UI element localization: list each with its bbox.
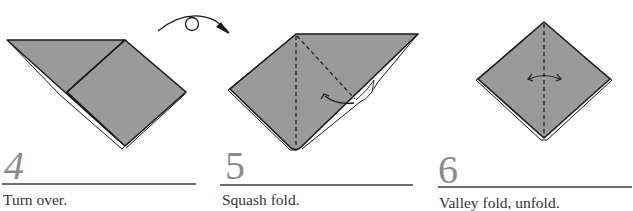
turn-over-arrow-icon	[158, 16, 229, 34]
step-4-model	[7, 40, 186, 149]
step-6-model	[476, 22, 612, 140]
step-number-6: 6	[438, 150, 458, 190]
step-5-caption: Squash fold.	[222, 192, 300, 208]
step-4-caption: Turn over.	[3, 192, 67, 208]
step-4-divider	[2, 183, 196, 185]
step-6-divider	[438, 186, 632, 188]
step-number-4: 4	[4, 146, 24, 186]
step-5-model	[228, 34, 418, 150]
step-6-caption: Valley fold, unfold.	[439, 195, 560, 211]
step-number-5: 5	[225, 146, 245, 186]
step-5-divider	[220, 184, 413, 186]
origami-diagram	[0, 0, 633, 211]
